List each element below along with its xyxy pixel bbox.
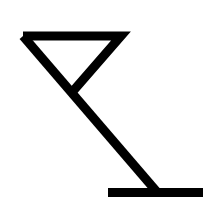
cocktail-glass-icon bbox=[0, 0, 203, 200]
glass-stem bbox=[23, 36, 157, 192]
glass-cup-outline bbox=[23, 36, 121, 90]
cocktail-glass-icon-container bbox=[0, 0, 203, 200]
glass-base bbox=[108, 188, 203, 197]
